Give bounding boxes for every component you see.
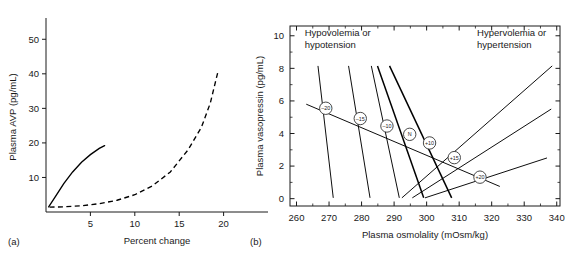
panel-a-plot: 10203040505101520Percent changePlasma AV… bbox=[0, 0, 286, 257]
osmolality-response-dashed bbox=[50, 70, 219, 207]
left-annotation: hypotension bbox=[305, 39, 356, 50]
y-tick-label: 0 bbox=[279, 193, 284, 204]
x-tick-label: 20 bbox=[218, 218, 229, 229]
node-label: +15 bbox=[450, 155, 459, 161]
isopleth-pivot-line bbox=[306, 104, 500, 186]
panel-b: 0246810260270280290300310320330340Plasma… bbox=[250, 0, 573, 257]
x-tick-label: 310 bbox=[451, 212, 467, 223]
y-tick-label: 50 bbox=[28, 34, 39, 45]
x-tick-label: 10 bbox=[130, 218, 141, 229]
y-tick-label: 40 bbox=[28, 68, 39, 79]
y-tick-label: 30 bbox=[28, 103, 39, 114]
y-tick-label: 20 bbox=[28, 137, 39, 148]
x-tick-label: 5 bbox=[88, 218, 93, 229]
x-tick-label: 300 bbox=[419, 212, 435, 223]
node-blood-volume-change-minus-20: –20 bbox=[320, 102, 332, 114]
panel-a: 10203040505101520Percent changePlasma AV… bbox=[0, 0, 286, 257]
panel-b-xlabel: Plasma osmolality (mOsm/kg) bbox=[362, 229, 488, 240]
node-blood-volume-change-minus-10: –10 bbox=[381, 120, 393, 132]
left-annotation: Hypovolemia or bbox=[305, 27, 371, 38]
figure-container: 10203040505101520Percent changePlasma AV… bbox=[0, 0, 573, 257]
x-tick-label: 280 bbox=[354, 212, 370, 223]
y-tick-label: 4 bbox=[279, 128, 284, 139]
node-label: +10 bbox=[425, 140, 434, 146]
x-tick-label: 260 bbox=[289, 212, 305, 223]
panel-b-caption: (b) bbox=[250, 236, 262, 247]
y-tick-label: 8 bbox=[279, 63, 284, 74]
panel-b-frame bbox=[290, 26, 560, 206]
node-blood-volume-change-plus-15: +15 bbox=[448, 151, 460, 163]
panel-b-plot: 0246810260270280290300310320330340Plasma… bbox=[250, 0, 573, 257]
node-blood-volume-change-plus-20: +20 bbox=[474, 171, 486, 183]
x-tick-label: 340 bbox=[549, 212, 565, 223]
right-annotation: Hypervolemia or bbox=[477, 27, 546, 38]
x-tick-label: 320 bbox=[484, 212, 500, 223]
node-label: –10 bbox=[382, 123, 391, 129]
node-label: –20 bbox=[321, 105, 330, 111]
blood-volume-change-minus-20 bbox=[318, 66, 333, 198]
volume-response-solid bbox=[49, 146, 105, 207]
blood-volume-change-plus-10 bbox=[390, 66, 452, 198]
node-label: +20 bbox=[475, 174, 484, 180]
y-tick-label: 2 bbox=[279, 160, 284, 171]
node-label: N bbox=[408, 131, 412, 137]
x-tick-label: 15 bbox=[174, 218, 185, 229]
node-label: –15 bbox=[356, 116, 365, 122]
y-tick-label: 10 bbox=[273, 30, 284, 41]
y-tick-label: 6 bbox=[279, 95, 284, 106]
panel-b-ylabel: Plasma vasopressin (pg/mL) bbox=[254, 56, 265, 176]
panel-a-ylabel: Plasma AVP (pg/mL) bbox=[7, 73, 18, 160]
panel-a-caption: (a) bbox=[8, 236, 20, 247]
node-blood-volume-change-plus-10: +10 bbox=[423, 137, 435, 149]
blood-volume-change-minus-15 bbox=[349, 66, 370, 198]
x-tick-label: 290 bbox=[386, 212, 402, 223]
right-annotation: hypertension bbox=[477, 39, 531, 50]
panel-a-xlabel: Percent change bbox=[124, 235, 191, 246]
node-blood-volume-change-normal: N bbox=[404, 128, 416, 140]
y-tick-label: 10 bbox=[28, 172, 39, 183]
x-tick-label: 330 bbox=[516, 212, 532, 223]
x-tick-label: 270 bbox=[321, 212, 337, 223]
blood-volume-change-plus-20 bbox=[412, 109, 551, 198]
panel-b-data bbox=[306, 66, 552, 198]
node-blood-volume-change-minus-15: –15 bbox=[354, 112, 366, 124]
